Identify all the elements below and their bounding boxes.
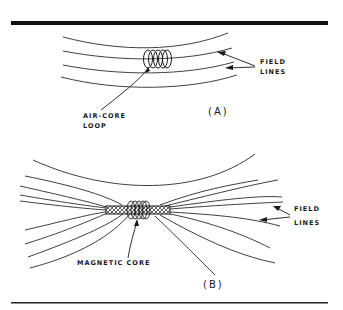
magnetic-core-label: MAGNETIC CORE [77, 259, 150, 267]
arrow-icon [225, 65, 233, 70]
arrow-icon [273, 206, 281, 211]
arrow-icon [134, 219, 139, 226]
air-core-label-line1: AIR-CORE [83, 112, 126, 120]
top-rule [11, 21, 328, 25]
magnetic-core-leader [128, 221, 137, 258]
panel-b: FIELD LINES MAGNETIC CORE (B) [20, 154, 320, 290]
field-lines-label-a-line1: FIELD [260, 58, 286, 66]
magnetic-core-icon [106, 206, 170, 214]
air-core-leader [101, 68, 148, 110]
bottom-rule [11, 302, 328, 304]
field-lines-label-a-line2: LINES [260, 68, 286, 76]
air-core-label-line2: LOOP [83, 122, 107, 130]
panel-b-caption: (B) [203, 279, 224, 290]
field-lines-label-b-line2: LINES [294, 219, 320, 227]
field-lines-label-b-line1: FIELD [294, 205, 320, 213]
field-lines-diagram: FIELD LINES AIR-CORE LOOP (A) [0, 0, 343, 310]
panel-a-caption: (A) [208, 106, 229, 117]
panel-a: FIELD LINES AIR-CORE LOOP (A) [61, 33, 286, 130]
